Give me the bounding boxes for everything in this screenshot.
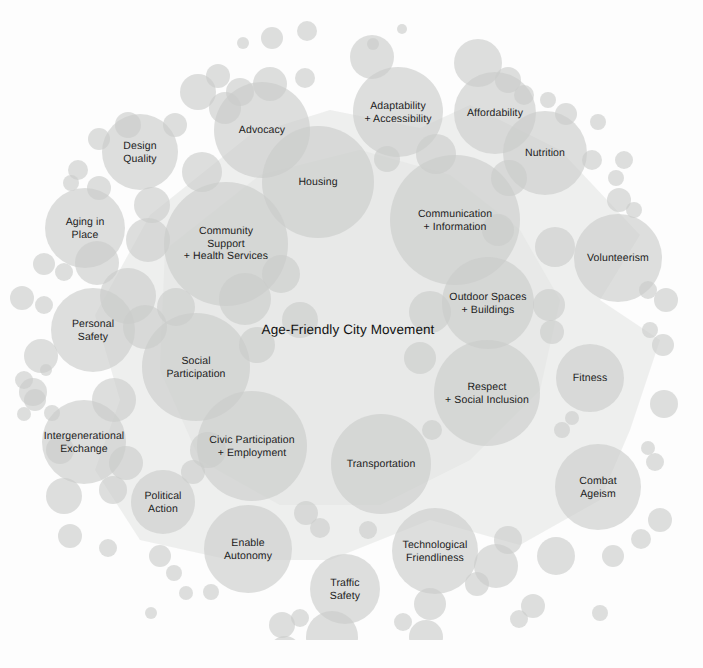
- bubble-decor: [75, 241, 119, 285]
- bubble-decor: [535, 227, 575, 267]
- bubble-decor: [115, 112, 141, 138]
- figure-root: Design QualityAdvocacyAdaptability + Acc…: [0, 0, 703, 668]
- bubble-decor: [253, 67, 287, 101]
- bubble-decor: [494, 526, 522, 554]
- bubble-node[interactable]: [442, 257, 534, 349]
- bubble-decor: [533, 289, 565, 321]
- bubble-decor: [291, 609, 309, 627]
- bubble-decor: [540, 320, 564, 344]
- bubble-decor: [374, 146, 400, 172]
- bubble-decor: [181, 460, 205, 484]
- bubble-decor: [99, 539, 117, 557]
- bubble-decor: [126, 218, 170, 262]
- bubble-decor: [44, 405, 60, 421]
- bubble-decor: [422, 420, 442, 440]
- bubble-decor: [92, 378, 136, 422]
- bubble-decor: [540, 92, 556, 108]
- bubble-decor: [454, 39, 502, 87]
- bubble-decor: [514, 85, 534, 105]
- bubble-decor: [397, 24, 407, 34]
- bubble-decor: [295, 68, 315, 88]
- bubble-decor: [607, 188, 631, 212]
- bubble-decor: [10, 286, 34, 310]
- bubble-decor: [261, 27, 283, 49]
- bubble-decor: [491, 160, 527, 196]
- bubble-decor: [269, 636, 301, 640]
- bubble-decor: [642, 322, 658, 338]
- bubble-decor: [182, 152, 222, 192]
- bubble-decor: [209, 92, 241, 124]
- bubble-diagram-canvas: [0, 0, 703, 640]
- bubble-decor: [409, 620, 443, 640]
- bubble-decor: [537, 537, 575, 575]
- bubble-decor: [219, 273, 271, 325]
- bubble-decor: [17, 407, 31, 421]
- bubble-decor: [109, 446, 143, 480]
- bubble-decor: [239, 327, 275, 363]
- bubble-decor: [482, 214, 514, 246]
- bubble-decor: [166, 565, 182, 581]
- bubble-node[interactable]: [331, 414, 431, 514]
- bubble-decor: [582, 150, 602, 170]
- bubble-node[interactable]: [392, 508, 478, 594]
- bubble-decor: [394, 613, 412, 631]
- bubble-decor: [262, 255, 300, 293]
- bubble-decor: [35, 296, 53, 314]
- bubble-decor: [592, 605, 608, 621]
- bubble-decor: [416, 134, 456, 174]
- bubble-decor: [33, 253, 55, 275]
- bubble-decor: [565, 411, 579, 425]
- bubble-decor: [237, 37, 249, 49]
- bubble-decor: [639, 281, 657, 299]
- bubble-decor: [206, 64, 230, 88]
- bubble-decor: [554, 422, 570, 438]
- bubble-node[interactable]: [310, 554, 380, 624]
- bubble-node[interactable]: [434, 340, 540, 446]
- bubble-decor: [145, 607, 157, 619]
- bubble-decor: [46, 436, 74, 464]
- bubble-decor: [404, 342, 436, 374]
- bubble-decor: [282, 302, 318, 338]
- bubble-decor: [297, 21, 317, 41]
- bubble-decor: [602, 545, 624, 567]
- bubble-decor: [359, 521, 377, 539]
- bubble-decor: [641, 441, 655, 455]
- bubble-decor: [63, 175, 79, 191]
- bubble-decor: [15, 371, 33, 389]
- bubble-decor: [367, 38, 379, 50]
- bubble-decor: [55, 263, 73, 281]
- bubble-decor: [414, 588, 446, 620]
- bubble-decor: [650, 390, 678, 418]
- bubble-decor: [615, 151, 633, 169]
- bubble-decor: [608, 170, 624, 186]
- bubble-decor: [631, 529, 651, 549]
- bubble-decor: [87, 176, 111, 200]
- bubble-node[interactable]: [204, 505, 292, 593]
- bubble-decor: [269, 612, 295, 638]
- bubble-decor: [521, 594, 545, 618]
- bubble-node[interactable]: [555, 444, 641, 530]
- bubble-decor: [310, 518, 330, 538]
- bubble-decor: [648, 508, 672, 532]
- bubble-decor: [646, 453, 664, 471]
- bubble-decor: [58, 524, 82, 548]
- bubble-decor: [40, 364, 52, 376]
- bubble-decor: [163, 113, 187, 137]
- bubble-decor: [149, 545, 171, 567]
- bubble-decor: [179, 586, 193, 600]
- bubble-node[interactable]: [556, 344, 624, 412]
- bubble-decor: [555, 103, 577, 125]
- bubble-decor: [134, 187, 170, 223]
- bubble-decor: [46, 478, 82, 514]
- bubble-decor: [99, 476, 127, 504]
- bubble-decor: [654, 288, 678, 312]
- bubble-decor: [409, 291, 451, 333]
- bubble-decor: [88, 128, 110, 150]
- bubble-decor: [24, 389, 46, 411]
- bubble-decor: [203, 584, 219, 600]
- bubble-decor: [590, 114, 606, 130]
- bubble-decor: [652, 334, 674, 356]
- bubble-decor: [157, 288, 195, 326]
